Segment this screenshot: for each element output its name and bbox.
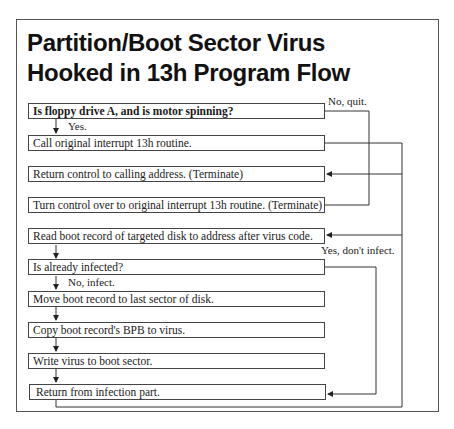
step-copy-bpb: Copy boot record's BPB to virus. — [28, 322, 325, 338]
step-write-virus: Write virus to boot sector. — [28, 353, 325, 369]
branch-label-no-infect: No, infect. — [68, 276, 115, 288]
step-move-boot: Move boot record to last sector of disk. — [28, 291, 325, 307]
branch-label-no-quit: No, quit. — [328, 95, 367, 107]
step-call-original: Call original interrupt 13h routine. — [28, 135, 325, 151]
step-return-control: Return control to calling address. (Term… — [28, 166, 325, 182]
step-already-infected: Is already infected? — [28, 259, 325, 275]
step-check-floppy: Is floppy drive A, and is motor spinning… — [28, 103, 325, 119]
step-turn-control: Turn control over to original interrupt … — [28, 197, 325, 213]
step-return-infection: Return from infection part. — [29, 384, 326, 400]
step-read-boot: Read boot record of targeted disk to add… — [28, 228, 325, 244]
branch-label-yes: Yes. — [68, 120, 87, 132]
branch-label-yes-dont-infect: Yes, don't infect. — [321, 244, 395, 256]
